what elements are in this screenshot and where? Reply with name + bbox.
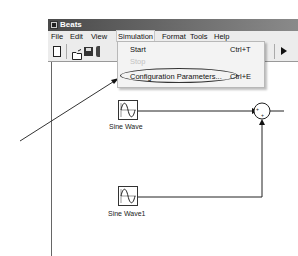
menu-item-stop[interactable]: Stop bbox=[118, 56, 264, 68]
sum-sign-plus: + bbox=[256, 106, 259, 112]
highlight-ellipse bbox=[120, 68, 238, 83]
menu-item-label: Stop bbox=[130, 56, 145, 68]
menu-item-shortcut: Ctrl+T bbox=[230, 44, 251, 56]
signal-line[interactable] bbox=[138, 124, 262, 197]
sum-sign-plus: + bbox=[261, 112, 264, 118]
diagram-overlay: + + bbox=[0, 0, 298, 256]
menu-item-start[interactable]: Start Ctrl+T bbox=[118, 44, 264, 56]
annotation-arrow bbox=[20, 80, 116, 141]
menu-item-label: Start bbox=[130, 44, 146, 56]
arrowhead-icon bbox=[259, 119, 265, 125]
